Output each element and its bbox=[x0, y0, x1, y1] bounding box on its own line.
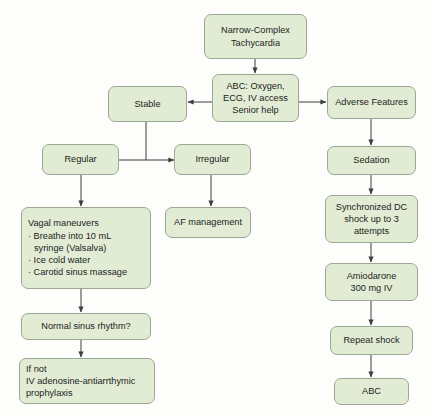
node-vagal-maneuvers[interactable]: Vagal maneuvers · Breathe into 10 mL syr… bbox=[21, 207, 151, 289]
node-label-line: · Ice cold water bbox=[28, 254, 90, 266]
node-af-management[interactable]: AF management bbox=[165, 207, 251, 238]
node-label-line: ECG, IV access bbox=[223, 92, 288, 104]
node-sedation[interactable]: Sedation bbox=[327, 146, 416, 175]
node-repeat-shock[interactable]: Repeat shock bbox=[330, 326, 413, 355]
node-abc-final[interactable]: ABC bbox=[334, 378, 409, 405]
node-stable[interactable]: Stable bbox=[108, 86, 187, 122]
node-amiodarone[interactable]: Amiodarone 300 mg IV bbox=[325, 263, 418, 301]
node-label-line: Amiodarone bbox=[347, 270, 397, 282]
node-label-line: Sedation bbox=[353, 154, 389, 166]
node-label-line: Synchronized DC bbox=[336, 201, 408, 213]
node-synchronized-dc-shock[interactable]: Synchronized DC shock up to 3 attempts bbox=[325, 195, 418, 243]
node-label-line: Adverse Features bbox=[335, 96, 408, 108]
node-label-line: · Carotid sinus massage bbox=[28, 266, 127, 278]
node-label-line: ABC: Oxygen, bbox=[226, 80, 284, 92]
node-irregular[interactable]: Irregular bbox=[174, 144, 251, 175]
node-regular[interactable]: Regular bbox=[42, 144, 119, 175]
node-label-line: syringe (Valsalva) bbox=[28, 242, 106, 254]
node-label-line: Vagal maneuvers bbox=[28, 217, 99, 229]
node-label-line: 300 mg IV bbox=[351, 282, 393, 294]
node-label-line: Irregular bbox=[195, 153, 229, 165]
node-label-line: · Breathe into 10 mL bbox=[28, 230, 111, 242]
node-label-line: prophylaxis bbox=[26, 387, 72, 399]
node-narrow-complex-tachycardia[interactable]: Narrow-Complex Tachycardia bbox=[204, 14, 307, 59]
node-label-line: If not bbox=[26, 363, 46, 375]
node-label-line: Senior help bbox=[232, 104, 278, 116]
flowchart-canvas: Narrow-Complex Tachycardia ABC: Oxygen, … bbox=[0, 0, 433, 417]
node-label-line: Regular bbox=[64, 153, 96, 165]
node-adverse-features[interactable]: Adverse Features bbox=[327, 86, 416, 119]
node-label-line: Narrow-Complex bbox=[221, 24, 290, 36]
node-abc-initial[interactable]: ABC: Oxygen, ECG, IV access Senior help bbox=[212, 74, 299, 122]
node-if-not-adenosine[interactable]: If not IV adenosine-antiarrthymic prophy… bbox=[19, 358, 155, 404]
node-label-line: ABC bbox=[362, 385, 381, 397]
node-label-line: Normal sinus rhythm? bbox=[41, 320, 130, 332]
node-label-line: IV adenosine-antiarrthymic bbox=[26, 375, 135, 387]
node-normal-sinus-rhythm[interactable]: Normal sinus rhythm? bbox=[21, 313, 151, 340]
node-label-line: AF management bbox=[174, 216, 242, 228]
node-label-line: shock up to 3 bbox=[344, 213, 399, 225]
node-label-line: Stable bbox=[134, 98, 160, 110]
node-label-line: Repeat shock bbox=[343, 334, 399, 346]
node-label-line: Tachycardia bbox=[231, 37, 280, 49]
node-label-line: attempts bbox=[354, 225, 389, 237]
